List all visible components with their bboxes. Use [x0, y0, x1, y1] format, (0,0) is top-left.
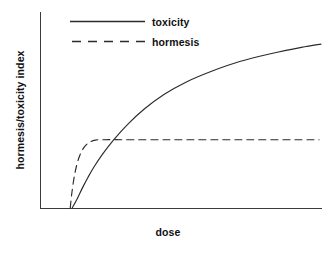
legend-label-toxicity: toxicity	[152, 16, 190, 28]
x-axis-title: dose	[156, 226, 181, 238]
legend-label-hormesis: hormesis	[152, 36, 200, 48]
chart-canvas: toxicity hormesis dose hormesis/toxicity…	[0, 0, 335, 256]
series-line-hormesis	[70, 140, 319, 208]
chart-series-group	[70, 44, 321, 208]
chart-legend: toxicity hormesis	[70, 16, 200, 48]
series-line-toxicity	[72, 44, 321, 208]
y-axis-title: hormesis/toxicity index	[14, 50, 26, 169]
chart-figure: toxicity hormesis dose hormesis/toxicity…	[0, 0, 335, 256]
